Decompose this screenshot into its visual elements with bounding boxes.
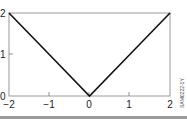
y-tick-label: 0 [0,91,6,102]
x-tick-label: −1 [43,99,55,110]
x-tick-label: 2 [167,99,173,110]
chart: −2 −1 0 1 2 0 1 2 SAM0222-1Y [0,0,187,119]
x-tick-label: 1 [126,99,132,110]
y-tick-label: 2 [0,8,6,19]
plot-frame [9,13,170,96]
y-tick-label: 1 [0,49,6,60]
x-tick-labels: −2 −1 0 1 2 [3,99,173,110]
bottom-divider [0,116,187,119]
y-tick-labels: 0 1 2 [0,8,6,102]
x-tick-label: 0 [86,99,92,110]
data-line [9,13,170,96]
figure-id-label: SAM0222-1Y [179,78,185,108]
